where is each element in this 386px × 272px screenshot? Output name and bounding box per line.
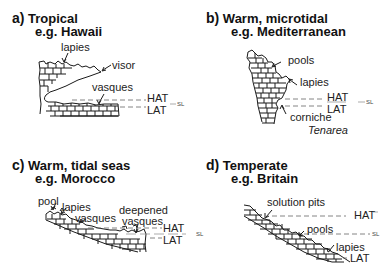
level-sl-c-connector: SL — [196, 231, 203, 237]
level-lat: LAT — [350, 253, 369, 264]
level-sl: SL — [372, 231, 379, 237]
label-pools: pools — [307, 224, 333, 235]
label-solution-pits: solution pits — [267, 197, 325, 208]
level-hat: HAT — [354, 210, 375, 221]
